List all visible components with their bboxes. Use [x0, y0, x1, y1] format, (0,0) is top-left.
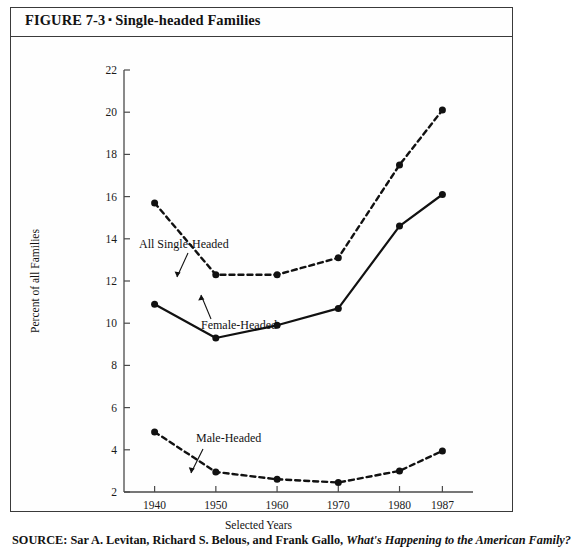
- data-point-marker: [439, 191, 446, 198]
- series-all-single-headed: [151, 107, 446, 279]
- x-axis-caption: Selected Years: [0, 519, 517, 531]
- data-point-marker: [212, 271, 219, 278]
- y-tick-label: 10: [106, 317, 118, 329]
- x-tick-label: 1940: [143, 499, 166, 511]
- y-tick-label: 4: [111, 444, 117, 456]
- y-tick-label: 22: [106, 64, 118, 76]
- x-tick-label: 1950: [204, 499, 227, 511]
- square-bullet-icon: ▪: [105, 13, 115, 25]
- series-line: [155, 195, 443, 339]
- data-point-marker: [335, 305, 342, 312]
- line-chart: 246810121416182022 194019501960197019801…: [11, 37, 514, 511]
- y-tick-label: 12: [106, 275, 118, 287]
- data-point-marker: [335, 254, 342, 261]
- figure-title-bar: FIGURE 7-3▪Single-headed Families: [11, 8, 512, 37]
- annotation-female-headed: Female-Headed: [201, 318, 277, 332]
- y-tick-label: 6: [111, 402, 117, 414]
- figure-box: FIGURE 7-3▪Single-headed Families 246810…: [10, 7, 513, 512]
- source-title: What's Happening to the American Family?: [346, 533, 571, 547]
- x-tick-label: 1980: [388, 499, 411, 511]
- x-tick-label: 1970: [327, 499, 350, 511]
- y-tick-label: 20: [106, 106, 118, 118]
- x-axis-ticks: 194019501960197019801987: [143, 486, 454, 511]
- y-axis-title: Percent of all Families: [29, 229, 41, 333]
- data-series-layer: [151, 107, 446, 486]
- source-note: SOURCE: Sar A. Levitan, Richard S. Belou…: [12, 533, 512, 548]
- data-point-marker: [439, 447, 446, 454]
- data-point-marker: [439, 107, 446, 114]
- data-point-marker: [151, 428, 158, 435]
- data-point-marker: [274, 476, 281, 483]
- page-title: FIGURE 7-3▪Single-headed Families: [25, 12, 261, 29]
- source-prefix: SOURCE: Sar A. Levitan, Richard S. Belou…: [12, 533, 346, 547]
- data-point-marker: [151, 301, 158, 308]
- series-annotations: All Single-Headed Female-Headed Male-Hea…: [139, 237, 277, 473]
- data-point-marker: [212, 335, 219, 342]
- chart-plot-area: 246810121416182022 194019501960197019801…: [11, 37, 514, 511]
- figure-title-text: Single-headed Families: [115, 12, 260, 28]
- annotation-all-single-headed: All Single-Headed: [139, 237, 229, 251]
- annotation-male-headed: Male-Headed: [196, 431, 261, 445]
- data-point-marker: [396, 161, 403, 168]
- data-point-marker: [274, 271, 281, 278]
- y-axis-ticks: 246810121416182022: [106, 64, 131, 498]
- data-point-marker: [335, 479, 342, 486]
- y-tick-label: 2: [111, 486, 117, 498]
- x-tick-label: 1960: [266, 499, 289, 511]
- y-tick-label: 8: [111, 359, 117, 371]
- data-point-marker: [151, 199, 158, 206]
- data-point-marker: [396, 467, 403, 474]
- y-tick-label: 14: [106, 233, 118, 245]
- data-point-marker: [212, 469, 219, 476]
- figure-number: FIGURE 7-3: [25, 12, 105, 28]
- x-tick-label: 1987: [431, 499, 454, 511]
- data-point-marker: [396, 223, 403, 230]
- y-tick-label: 18: [106, 148, 118, 160]
- y-tick-label: 16: [106, 191, 118, 203]
- series-female-headed: [151, 191, 446, 342]
